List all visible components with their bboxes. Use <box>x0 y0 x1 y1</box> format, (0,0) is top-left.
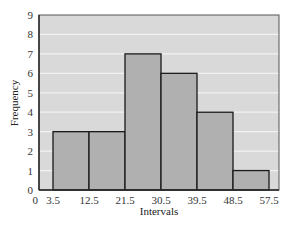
x-tick-label: 21.5 <box>115 194 135 206</box>
y-tick-label: 1 <box>28 165 34 177</box>
histogram-bar <box>125 54 161 190</box>
histogram-bar <box>161 73 197 190</box>
y-axis-label: Frequency <box>8 79 20 126</box>
histogram-bar <box>197 112 233 190</box>
x-tick-label: 12.5 <box>79 194 99 206</box>
x-axis-label: Intervals <box>140 205 178 217</box>
y-tick-label: 9 <box>28 9 34 21</box>
x-tick-label: 39.5 <box>187 194 207 206</box>
x-tick-label: 57.5 <box>259 194 279 206</box>
x-tick-label: 48.5 <box>223 194 243 206</box>
histogram-bar <box>53 132 89 190</box>
x-tick-label: 3.5 <box>46 194 60 206</box>
y-tick-label: 2 <box>28 145 34 157</box>
x-tick-label: 0 <box>33 194 39 206</box>
y-tick-label: 5 <box>28 87 34 99</box>
y-tick-label: 7 <box>28 48 34 60</box>
y-tick-label: 6 <box>28 67 34 79</box>
histogram-bar <box>89 132 125 190</box>
y-tick-label: 3 <box>28 126 34 138</box>
y-tick-label: 8 <box>28 28 34 40</box>
y-tick-label: 4 <box>28 106 34 118</box>
y-tick-labels: 0123456789 <box>28 9 34 196</box>
histogram-bar <box>233 171 269 190</box>
histogram-chart: 0123456789 03.512.521.530.539.548.557.5 … <box>0 0 293 231</box>
